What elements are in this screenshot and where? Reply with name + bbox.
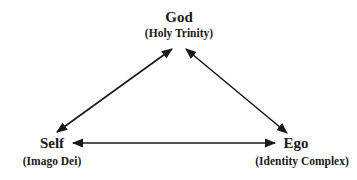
node-god-subtitle: (Holy Trinity) — [145, 27, 213, 40]
edge-god-self — [57, 49, 172, 132]
node-ego-subtitle: (Identity Complex) — [255, 155, 349, 168]
node-self-subtitle: (Imago Dei) — [23, 155, 81, 168]
node-ego-title: Ego — [283, 135, 308, 151]
node-god-title: God — [165, 9, 193, 25]
node-self-title: Self — [40, 135, 64, 151]
edge-god-ego — [186, 49, 287, 133]
